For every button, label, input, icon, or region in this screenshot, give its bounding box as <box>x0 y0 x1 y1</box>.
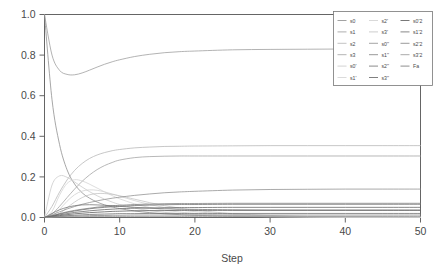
y-tick-label: 0.4 <box>21 130 36 142</box>
legend-label-s1p: s1' <box>350 75 356 81</box>
legend-label-s0p: s0' <box>350 63 356 69</box>
legend-label-s2pp: s2'' <box>382 63 389 69</box>
x-tick-label: 50 <box>415 225 427 237</box>
legend-label-s2: s2 <box>350 41 356 47</box>
chart-figure: 0.00.20.40.60.81.0 01020304050 Step s0s1… <box>0 0 436 270</box>
x-tick-label: 0 <box>42 225 48 237</box>
legend-label-s1pp: s1'' <box>382 52 389 58</box>
chart-legend: s0s1s2s3s0's1's2's3's0''s1''s2''s3''s0'2… <box>334 12 433 86</box>
legend-label-s0: s0 <box>350 18 356 24</box>
x-axis-title: Step <box>221 252 243 264</box>
x-tick-label: 40 <box>339 225 351 237</box>
legend-label-s3p2: s3'2 <box>413 52 422 58</box>
legend-label-s3: s3 <box>350 52 356 58</box>
legend-label-s0p2: s0'2 <box>413 18 422 24</box>
y-tick-label: 1.0 <box>21 8 36 20</box>
x-tick-label: 30 <box>264 225 276 237</box>
y-tick-label: 0.6 <box>21 89 36 101</box>
legend-label-s2p2: s2'2 <box>413 41 422 47</box>
legend-label-s2p: s2' <box>382 18 388 24</box>
step-line-chart: 0.00.20.40.60.81.0 01020304050 Step s0s1… <box>0 0 436 270</box>
legend-label-s0pp: s0'' <box>382 41 389 47</box>
y-tick-label: 0.2 <box>21 171 36 183</box>
legend-label-s3p: s3' <box>382 29 388 35</box>
y-tick-label: 0.0 <box>21 211 36 223</box>
y-tick-label: 0.8 <box>21 49 36 61</box>
x-tick-label: 10 <box>114 225 126 237</box>
legend-label-s1: s1 <box>350 29 356 35</box>
legend-label-s1p2: s1'2 <box>413 29 422 35</box>
legend-label-s3pp: s3'' <box>382 75 389 81</box>
legend-label-Fa: Fa <box>413 63 419 69</box>
x-tick-label: 20 <box>189 225 201 237</box>
